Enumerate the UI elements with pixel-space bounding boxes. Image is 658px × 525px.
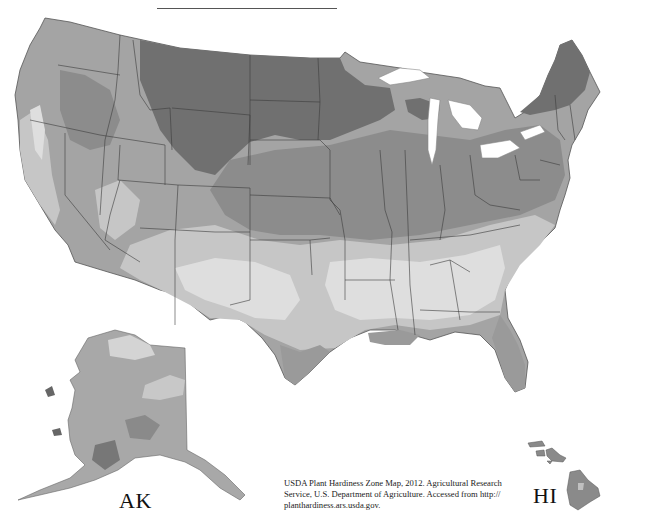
alaska-label: AK <box>119 488 152 514</box>
alaska <box>18 330 245 500</box>
hawaii-label: HI <box>533 483 557 509</box>
source-citation: USDA Plant Hardiness Zone Map, 2012. Agr… <box>284 478 529 511</box>
hardiness-zone-map <box>0 0 658 525</box>
